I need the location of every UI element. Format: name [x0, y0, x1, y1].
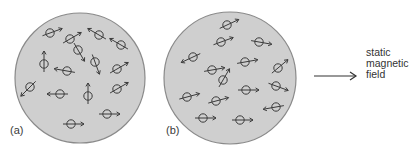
field-label: static magnetic field	[366, 47, 409, 80]
sample-disc-b	[164, 12, 296, 144]
panel-b-aligned-dipoles	[164, 12, 296, 144]
nmr-dipole-diagram	[0, 0, 419, 147]
magnetic-field-arrow-icon	[314, 72, 356, 80]
panel-label-b: (b)	[166, 124, 179, 136]
field-label-line-3: field	[366, 69, 409, 80]
panel-a-random-dipoles	[15, 13, 145, 143]
panel-label-a: (a)	[10, 124, 23, 136]
